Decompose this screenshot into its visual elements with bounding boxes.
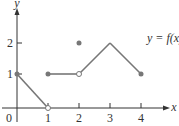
function-label: y = f(x) (146, 31, 179, 45)
x-axis-label: x (170, 100, 177, 114)
x-tick-4: 4 (138, 111, 144, 125)
x-axis-arrow-icon (163, 106, 170, 111)
y-tick-2: 2 (7, 36, 13, 50)
y-tick-1: 1 (7, 67, 13, 81)
x-tick-1: 1 (45, 111, 51, 125)
x-tick-0: 0 (6, 111, 12, 125)
function-graph: 0 1 2 3 4 1 2 x y y = f(x) (0, 0, 179, 126)
x-tick-3: 3 (107, 111, 113, 125)
y-axis-label: y (13, 0, 20, 10)
open-points (46, 72, 82, 111)
x-tick-2: 2 (76, 111, 82, 125)
